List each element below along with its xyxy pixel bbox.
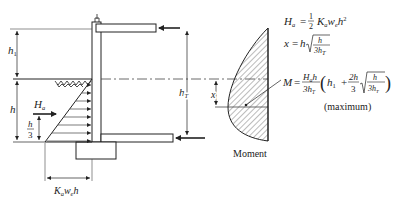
svg-text:3hT: 3hT bbox=[313, 46, 326, 56]
svg-text:2: 2 bbox=[309, 22, 313, 31]
svg-text:h1: h1 bbox=[327, 76, 336, 89]
h-over-3-label: h 3 bbox=[27, 119, 34, 140]
svg-text:Hah: Hah bbox=[302, 72, 318, 83]
svg-text:3hT: 3hT bbox=[302, 84, 316, 95]
h1-dimension bbox=[10, 29, 92, 77]
svg-text:3: 3 bbox=[28, 130, 33, 140]
h-label: h bbox=[10, 103, 16, 115]
svg-text:h: h bbox=[28, 119, 33, 129]
svg-text:3: 3 bbox=[351, 84, 356, 94]
svg-text:=: = bbox=[292, 37, 298, 49]
equation-m: M = Hah 3hT ( h1 + 2h 3 h 3hT ) bbox=[282, 72, 391, 95]
moment-caption: Moment bbox=[233, 148, 267, 159]
svg-text:+: + bbox=[341, 76, 347, 88]
base-width-label: Kaweh bbox=[53, 185, 78, 197]
h1-label: h1 bbox=[8, 44, 17, 57]
maximum-note: (maximum) bbox=[324, 101, 371, 113]
svg-text:=: = bbox=[300, 15, 306, 27]
bottom-slab bbox=[101, 134, 173, 142]
soil-hatch-icon bbox=[55, 81, 91, 87]
svg-text:x: x bbox=[283, 37, 289, 49]
svg-text:Kaweh2: Kaweh2 bbox=[316, 15, 347, 28]
wall-top-cap bbox=[95, 14, 99, 22]
svg-text:2h: 2h bbox=[349, 72, 359, 82]
svg-text:Ha: Ha bbox=[283, 15, 295, 28]
svg-text:3hT: 3hT bbox=[367, 84, 380, 94]
svg-text:M: M bbox=[282, 76, 293, 88]
svg-text:(: ( bbox=[320, 73, 326, 94]
svg-text:1: 1 bbox=[309, 12, 313, 21]
svg-text:h: h bbox=[373, 73, 377, 82]
ha-label: Ha bbox=[33, 98, 45, 111]
x-label: x bbox=[210, 89, 216, 100]
wall-stem bbox=[92, 22, 101, 142]
equation-x: x = h h 3hT bbox=[283, 35, 330, 56]
retaining-wall-diagram: h1 h Ha h 3 hT x Kaweh Moment Ha = 1 2 K… bbox=[0, 0, 409, 203]
svg-text:): ) bbox=[385, 73, 391, 94]
svg-text:=: = bbox=[294, 76, 300, 88]
footing bbox=[76, 142, 116, 159]
top-strut bbox=[96, 24, 156, 32]
svg-text:h: h bbox=[300, 37, 306, 49]
earth-pressure-triangle bbox=[45, 79, 92, 142]
svg-text:h: h bbox=[318, 36, 322, 45]
equation-ha: Ha = 1 2 Kaweh2 bbox=[283, 12, 347, 31]
moment-diagram bbox=[228, 28, 281, 141]
